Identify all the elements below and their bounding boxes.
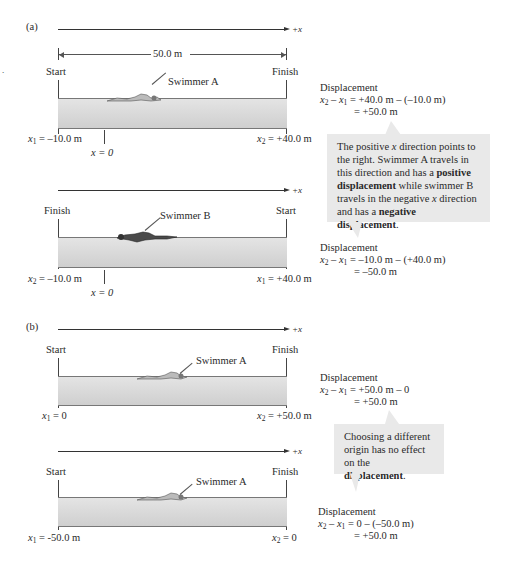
- callout-box: The positive x direction points to the r…: [327, 134, 490, 222]
- displacement-equation: x2 – x1 = –10.0 m – (+40.0 m): [320, 254, 446, 266]
- position-label-left: x2 = –10.0 m: [28, 273, 82, 285]
- position-label-right: x2 = +40.0 m: [257, 133, 312, 145]
- position-label-left: x1 = -50.0 m: [28, 532, 80, 544]
- displacement-block: Displacement x2 – x1 = 0 – (–50.0 m) = +…: [318, 506, 414, 542]
- displacement-title: Displacement: [318, 506, 414, 518]
- dimension-line-left: [59, 54, 151, 55]
- axis-label: +x: [292, 23, 302, 35]
- panel-a-label: (a): [26, 21, 38, 33]
- displacement-title: Displacement: [320, 242, 446, 254]
- origin-marker: [104, 130, 105, 144]
- displacement-block: Displacement x2 – x1 = +40.0 m – (–10.0 …: [320, 82, 446, 118]
- swimmer-label: Swimmer A: [168, 76, 218, 88]
- position-label-right: x2 = 0: [272, 532, 297, 544]
- swimmer-leader-line: [152, 73, 166, 85]
- stray-dot: .: [2, 64, 4, 76]
- arrowhead-icon: [284, 188, 290, 192]
- dimension-line-right: [190, 54, 286, 55]
- finish-label: Finish: [272, 344, 298, 356]
- callout-tail-down: [348, 222, 362, 238]
- x-axis-arrow: [58, 451, 284, 452]
- pool: [58, 98, 287, 129]
- swimmer-icon: [105, 92, 163, 104]
- position-label-left: x1 = –10.0 m: [28, 133, 82, 145]
- x-axis-arrow: [58, 190, 284, 191]
- arrowhead-icon: [284, 27, 290, 31]
- position-label-right: x2 = +50.0 m: [257, 410, 312, 422]
- finish-label: Finish: [272, 466, 298, 478]
- x-axis-arrow: [58, 29, 284, 30]
- displacement-result: = +50.0 m: [318, 530, 414, 542]
- displacement-equation: x2 – x1 = +40.0 m – (–10.0 m): [320, 94, 446, 106]
- arrowhead-icon: [284, 327, 290, 331]
- displacement-equation: x2 – x1 = +50.0 m – 0: [320, 384, 409, 396]
- origin-marker: [104, 270, 105, 284]
- panel-b-label: (b): [26, 321, 38, 333]
- axis-label: +x: [292, 445, 302, 457]
- length-label: 50.0 m: [153, 48, 182, 60]
- displacement-equation: x2 – x1 = 0 – (–50.0 m): [318, 518, 414, 530]
- start-label: Start: [46, 344, 66, 356]
- dimension-arrow-left-icon: [59, 52, 64, 58]
- origin-label: x = 0: [91, 147, 113, 159]
- axis-label: +x: [292, 323, 302, 335]
- swimmer-label: Swimmer B: [160, 210, 210, 222]
- displacement-title: Displacement: [320, 372, 409, 384]
- displacement-block: Displacement x2 – x1 = –10.0 m – (+40.0 …: [320, 242, 446, 278]
- position-label-right: x1 = +40.0 m: [257, 273, 312, 285]
- arrowhead-icon: [284, 449, 290, 453]
- origin-label: x = 0: [91, 287, 113, 299]
- displacement-block: Displacement x2 – x1 = +50.0 m – 0 = +50…: [320, 372, 409, 408]
- callout-tail-up: [385, 121, 401, 135]
- finish-label: Finish: [44, 205, 70, 217]
- position-label-left: x1 = 0: [42, 410, 67, 422]
- dimension-tick-right: [286, 48, 287, 60]
- displacement-result: = +50.0 m: [320, 106, 446, 118]
- swimmer-label: Swimmer A: [196, 355, 246, 367]
- swimmer-icon: [115, 230, 181, 244]
- callout-tail-up: [385, 410, 399, 424]
- start-label: Start: [276, 205, 296, 217]
- callout-box: Choosing a different origin has no effec…: [334, 424, 444, 474]
- callout-tail-down: [350, 474, 360, 492]
- displacement-result: = –50.0 m: [320, 266, 446, 278]
- x-axis-arrow: [58, 329, 284, 330]
- displacement-result: = +50.0 m: [320, 396, 409, 408]
- start-label: Start: [46, 66, 66, 78]
- start-label: Start: [46, 466, 66, 478]
- dimension-arrow-right-icon: [281, 52, 286, 58]
- displacement-title: Displacement: [320, 82, 446, 94]
- finish-label: Finish: [272, 66, 298, 78]
- swimmer-leader-line: [145, 217, 161, 231]
- axis-label: +x: [292, 184, 302, 196]
- swimmer-label: Swimmer A: [196, 476, 246, 488]
